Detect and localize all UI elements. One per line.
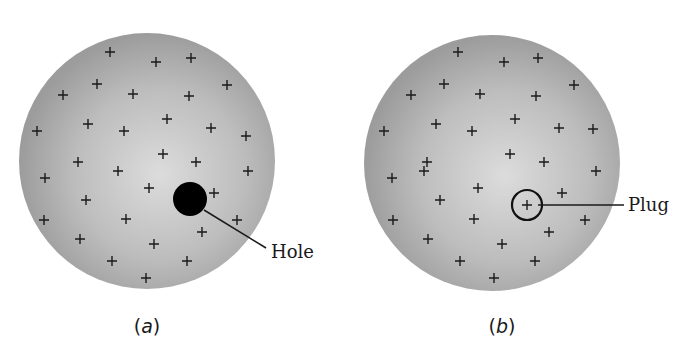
charged-sphere-a: [19, 33, 275, 289]
panel-b: Plug (b): [364, 35, 669, 337]
hole: [173, 182, 207, 216]
plug-label: Plug: [628, 194, 669, 215]
caption-b: (b): [489, 315, 516, 337]
caption-a-letter: a: [141, 315, 153, 337]
panel-a: Hole (a): [19, 33, 314, 337]
hole-label: Hole: [271, 241, 314, 262]
caption-b-letter: b: [496, 315, 508, 337]
charged-sphere-b: [364, 35, 620, 291]
figure: Hole (a) Plug (b): [0, 0, 690, 363]
caption-a: (a): [134, 315, 161, 337]
